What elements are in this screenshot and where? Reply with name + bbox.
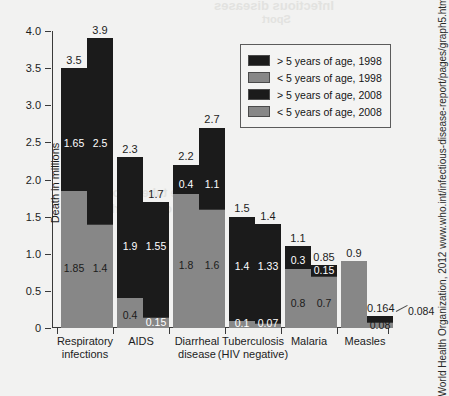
bar-diarrheal-2008[interactable]: 1.6 1.1 2.7 xyxy=(199,128,225,329)
x-category-line2: (HIV negative) xyxy=(213,348,293,361)
chart-legend: > 5 years of age, 1998 < 5 years of age,… xyxy=(240,44,391,128)
legend-item-label: > 5 years of age, 1998 xyxy=(277,55,382,67)
bar-group-aids: 0.4 1.9 2.3 0.15 1.55 1.7 xyxy=(117,31,169,328)
segment-under5-1998 xyxy=(61,191,87,328)
y-tick-label: 2.0 xyxy=(1,174,41,186)
y-tick-label: 1.5 xyxy=(1,211,41,223)
total-label-1998: 1.5 xyxy=(229,203,255,214)
bar-aids-1998[interactable]: 0.4 1.9 2.3 xyxy=(117,157,143,328)
segment-under5-1998 xyxy=(117,298,143,328)
total-label-1998: 3.5 xyxy=(61,55,87,66)
bar-tuberculosis-2008[interactable]: 0.07 1.33 1.4 xyxy=(255,224,281,328)
legend-item-label: > 5 years of age, 2008 xyxy=(277,89,382,101)
x-tick xyxy=(113,328,114,334)
y-tick-label: 0 xyxy=(1,322,41,334)
bar-malaria-2008[interactable]: 0.7 0.15 0.85 xyxy=(311,265,337,328)
total-label-1998: 1.1 xyxy=(285,233,311,244)
scan-bleed-artifact: Sport xyxy=(262,13,291,25)
y-tick xyxy=(45,31,51,32)
legend-item-over5-2008[interactable]: > 5 years of age, 2008 xyxy=(248,86,382,103)
source-caption-text: World Health Organization, 2012 www.who.… xyxy=(438,0,449,396)
legend-item-label: < 5 years of age, 2008 xyxy=(277,106,382,118)
y-tick xyxy=(45,105,51,106)
y-tick xyxy=(45,291,51,292)
segment-over5-1998 xyxy=(117,157,143,298)
x-tick xyxy=(281,328,282,334)
segment-under5-1998 xyxy=(173,194,199,328)
legend-swatch-icon xyxy=(248,106,270,117)
x-tick xyxy=(337,328,338,334)
y-tick xyxy=(45,328,51,329)
segment-under5-1998 xyxy=(341,261,367,328)
y-axis-title: Death in millions xyxy=(49,143,61,224)
y-tick-label: 1.0 xyxy=(1,248,41,260)
callout-leader-line xyxy=(396,305,408,312)
scan-bleed-artifact: Infectious diseases xyxy=(214,0,334,13)
segment-under5-2008 xyxy=(87,224,113,328)
total-label-1998: 0.9 xyxy=(341,248,367,259)
y-tick-label: 2.5 xyxy=(1,136,41,148)
total-label-2008: 0.85 xyxy=(311,252,337,263)
segment-over5-1998 xyxy=(229,217,255,321)
y-tick xyxy=(45,68,51,69)
segment-under5-2008 xyxy=(255,323,281,328)
legend-swatch-icon xyxy=(248,89,270,100)
legend-item-over5-1998[interactable]: > 5 years of age, 1998 xyxy=(248,52,382,69)
source-caption: World Health Organization, 2012 www.who.… xyxy=(427,0,443,393)
segment-over5-2008 xyxy=(143,202,169,317)
total-label-2008: 1.4 xyxy=(255,211,281,222)
segment-over5-2008 xyxy=(311,265,337,276)
x-category-label-measles: Measles xyxy=(325,335,405,348)
legend-item-label: < 5 years of age, 1998 xyxy=(277,72,382,84)
segment-under5-2008 xyxy=(199,209,225,328)
bar-measles-1998[interactable]: 0.9 xyxy=(341,261,367,328)
bar-diarrheal-1998[interactable]: 1.8 0.4 2.2 xyxy=(173,165,199,328)
total-label-2008: 0.164 xyxy=(367,303,393,314)
bar-group-diarrheal-disease: 1.8 0.4 2.2 1.6 1.1 2.7 xyxy=(173,31,225,328)
segment-over5-1998 xyxy=(173,165,199,195)
x-tick xyxy=(388,328,389,334)
x-category-line2: infections xyxy=(45,348,125,361)
x-category-line1: Measles xyxy=(325,335,405,348)
total-label-1998: 2.3 xyxy=(117,144,143,155)
total-label-2008: 3.9 xyxy=(87,25,113,36)
bar-group-respiratory-infections: 1.85 1.65 3.5 1.4 2.5 3.9 xyxy=(61,31,113,328)
bar-tuberculosis-1998[interactable]: 0.1 1.4 1.5 xyxy=(229,217,255,328)
segment-under5-1998 xyxy=(285,269,311,328)
y-tick xyxy=(45,180,51,181)
x-tick xyxy=(57,328,58,334)
legend-swatch-icon xyxy=(248,55,270,66)
bar-respiratory-1998[interactable]: 1.85 1.65 3.5 xyxy=(61,68,87,328)
segment-under5-2008 xyxy=(143,317,169,328)
y-tick xyxy=(45,217,51,218)
legend-swatch-icon xyxy=(248,72,270,83)
y-tick-label: 0.5 xyxy=(1,285,41,297)
segment-over5-2008 xyxy=(255,224,281,323)
total-label-1998: 2.2 xyxy=(173,151,199,162)
y-tick xyxy=(45,142,51,143)
segment-over5-2008 xyxy=(199,128,225,210)
segment-over5-2008 xyxy=(87,38,113,224)
segment-over5-1998 xyxy=(285,246,311,268)
legend-item-under5-2008[interactable]: < 5 years of age, 2008 xyxy=(248,103,382,120)
total-label-2008: 1.7 xyxy=(143,189,169,200)
y-tick-label: 3.0 xyxy=(1,99,41,111)
bar-aids-2008[interactable]: 0.15 1.55 1.7 xyxy=(143,202,169,328)
legend-item-under5-1998[interactable]: < 5 years of age, 1998 xyxy=(248,69,382,86)
segment-under5-2008 xyxy=(311,276,337,328)
y-tick xyxy=(45,254,51,255)
bar-measles-2008[interactable]: 0.08 0.164 xyxy=(367,316,393,328)
segment-over5-2008 xyxy=(367,316,393,322)
segment-under5-1998 xyxy=(229,321,255,328)
segment-over5-1998 xyxy=(61,68,87,191)
bar-respiratory-2008[interactable]: 1.4 2.5 3.9 xyxy=(87,38,113,328)
y-tick-label: 4.0 xyxy=(1,25,41,37)
segment-under5-2008 xyxy=(367,322,393,328)
x-tick xyxy=(225,328,226,334)
total-label-2008: 2.7 xyxy=(199,114,225,125)
bar-malaria-1998[interactable]: 0.8 0.3 1.1 xyxy=(285,246,311,328)
x-tick xyxy=(169,328,170,334)
y-tick-label: 3.5 xyxy=(1,62,41,74)
